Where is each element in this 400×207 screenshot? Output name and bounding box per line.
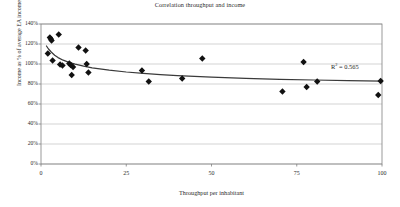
data-point — [68, 72, 74, 78]
chart-figure: Correlation throughput and income Income… — [0, 0, 400, 207]
data-point — [377, 78, 383, 84]
data-point — [279, 88, 285, 94]
r-squared-annotation: R2 = 0.565 — [331, 62, 359, 70]
plot-area — [0, 0, 400, 207]
data-point — [199, 55, 205, 61]
data-point — [75, 44, 81, 50]
data-point — [303, 84, 309, 90]
data-point — [56, 31, 62, 37]
data-point — [375, 92, 381, 98]
data-point — [49, 57, 55, 63]
data-point — [85, 69, 91, 75]
axis-tick-marks — [39, 24, 383, 167]
gridlines — [41, 24, 382, 164]
plot-border — [41, 24, 382, 164]
data-point — [82, 47, 88, 53]
r-squared-value: = 0.565 — [337, 63, 358, 70]
